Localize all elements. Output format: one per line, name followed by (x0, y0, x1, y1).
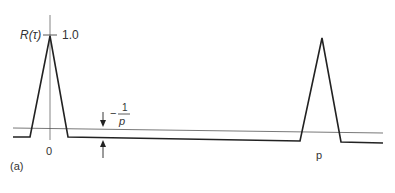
arrow-up-icon (100, 140, 106, 147)
zero-line (13, 128, 383, 133)
y-tick-label-1: 1.0 (62, 28, 79, 42)
arrow-down-icon (100, 120, 106, 127)
autocorrelation-figure: R(τ) 1.0 0 p (a) − 1 p (0, 0, 395, 193)
annotation-minus: − (110, 107, 116, 119)
annotation-denominator: p (118, 115, 125, 127)
y-axis-label: R(τ) (20, 28, 41, 42)
x-tick-label-p: p (316, 149, 322, 161)
annotation-numerator: 1 (122, 102, 128, 113)
autocorrelation-curve (13, 36, 383, 143)
panel-label: (a) (10, 160, 23, 172)
x-tick-label-0: 0 (46, 145, 52, 157)
